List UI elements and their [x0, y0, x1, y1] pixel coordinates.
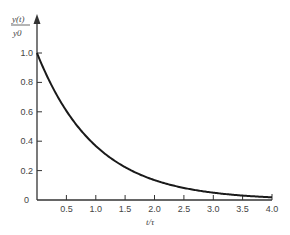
- x-tick-label: 4.0: [266, 204, 279, 214]
- x-ticks: 0.5 1.0 1.5 2.0 2.5 3.0 3.5 4.0: [60, 194, 278, 214]
- y-tick-label: 0.4: [20, 136, 33, 146]
- y-axis-label-numerator: y(t): [11, 14, 25, 24]
- y-ticks: 0 0.2 0.4 0.6 0.8 1.0: [20, 48, 42, 205]
- x-tick-label: 3.0: [207, 204, 220, 214]
- decay-curve: [37, 53, 272, 197]
- y-tick-label: 0.2: [20, 166, 33, 176]
- y-tick-label: 0.8: [20, 77, 33, 87]
- x-tick-label: 2.5: [178, 204, 191, 214]
- x-tick-label: 1.5: [119, 204, 132, 214]
- x-axis-label: t/τ: [146, 217, 155, 227]
- y-tick-label: 1.0: [20, 48, 33, 58]
- y-axis-arrow-icon: [34, 14, 41, 24]
- y-tick-label: 0.6: [20, 107, 33, 117]
- y-tick-label: 0: [24, 195, 29, 205]
- y-axis-label-denominator: y0: [12, 28, 22, 38]
- x-tick-label: 2.0: [148, 204, 161, 214]
- x-tick-label: 1.0: [90, 204, 103, 214]
- x-tick-label: 0.5: [60, 204, 73, 214]
- decay-chart: y(t) y0 0 0.2 0.4 0.6 0.8 1.0 0.5 1.0 1.…: [0, 0, 290, 235]
- x-tick-label: 3.5: [236, 204, 249, 214]
